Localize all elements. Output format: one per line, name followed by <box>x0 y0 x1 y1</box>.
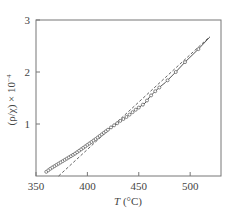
y-tick-label: 1 <box>25 118 31 130</box>
x-tick-label: 500 <box>182 180 199 192</box>
data-point <box>128 113 131 116</box>
y-axis-ticks: 123 <box>25 14 41 130</box>
y-axis-label: (ρ/χ) × 10−4 <box>5 74 18 125</box>
data-point <box>106 128 109 131</box>
data-point <box>113 124 116 127</box>
x-axis-ticks: 350400450500 <box>28 172 199 192</box>
data-point <box>137 106 140 109</box>
y-tick-label: 2 <box>25 66 31 78</box>
data-point <box>146 99 149 102</box>
data-point <box>131 111 134 114</box>
data-point <box>134 108 137 111</box>
x-axis-label: T (°C) <box>114 195 142 208</box>
data-curve <box>46 37 209 172</box>
data-point <box>122 118 125 121</box>
asymptote-dashed-line <box>59 37 210 176</box>
x-tick-label: 450 <box>131 180 148 192</box>
data-point <box>158 86 161 89</box>
x-tick-label: 350 <box>28 180 45 192</box>
data-point <box>125 115 128 118</box>
data-point <box>119 119 122 122</box>
data-point <box>150 94 153 97</box>
data-point <box>166 79 169 82</box>
data-point <box>110 126 113 129</box>
data-markers <box>45 48 200 174</box>
data-point <box>116 122 119 125</box>
plot-frame <box>36 20 221 176</box>
data-point <box>197 48 200 51</box>
x-tick-label: 400 <box>79 180 96 192</box>
y-tick-label: 3 <box>25 14 31 26</box>
data-point <box>174 71 177 74</box>
data-point <box>154 90 157 93</box>
data-point <box>184 61 187 64</box>
chart: 350400450500 123 T (°C) (ρ/χ) × 10−4 <box>0 0 233 213</box>
data-point <box>141 103 144 106</box>
